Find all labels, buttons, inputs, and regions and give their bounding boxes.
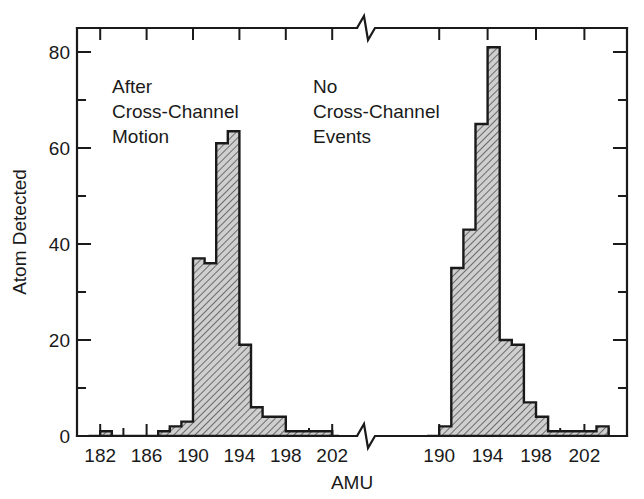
histogram-left-outline (89, 131, 344, 436)
x-axis-title: AMU (331, 472, 373, 493)
y-tick-label-0: 0 (59, 426, 70, 447)
histogram-right (427, 47, 608, 436)
y-tick-label-80: 80 (49, 42, 70, 63)
x-tick-label-left-190: 190 (177, 445, 209, 466)
y-tick-label-20: 20 (49, 330, 70, 351)
x-tick-label-left-198: 198 (270, 445, 302, 466)
annotation-right-line-2: Cross-Channel (313, 101, 440, 122)
annotation-left-line-2: Cross-Channel (112, 101, 239, 122)
x-tick-label-left-182: 182 (84, 445, 116, 466)
y-tick-label-40: 40 (49, 234, 70, 255)
annotation-right: No Cross-Channel Events (313, 76, 440, 147)
y-tick-labels: 0 20 40 60 80 (49, 42, 70, 447)
x-tick-label-left-186: 186 (131, 445, 163, 466)
x-tick-label-right-198: 198 (520, 445, 552, 466)
axis-break-top-icon (357, 16, 381, 40)
y-axis-title: Atom Detected (9, 169, 30, 295)
axis-break-bottom-icon (357, 424, 381, 448)
x-tick-label-right-202: 202 (569, 445, 601, 466)
annotation-left-line-1: After (112, 76, 153, 97)
annotation-right-line-3: Events (313, 126, 371, 147)
x-tick-label-right-190: 190 (423, 445, 455, 466)
x-tick-label-right-194: 194 (472, 445, 504, 466)
x-tick-label-left-202: 202 (316, 445, 348, 466)
plot-frame (77, 16, 627, 448)
chart-canvas: 0 20 40 60 80 Atom Detected (0, 0, 644, 499)
x-tick-label-left-194: 194 (224, 445, 256, 466)
histogram-figure: 0 20 40 60 80 Atom Detected (0, 0, 644, 499)
annotation-right-line-1: No (313, 76, 337, 97)
x-tick-labels-right: 190 194 198 202 (423, 445, 600, 466)
histogram-left (89, 131, 344, 436)
annotation-left-line-3: Motion (112, 126, 169, 147)
y-tick-label-60: 60 (49, 138, 70, 159)
annotation-left: After Cross-Channel Motion (112, 76, 239, 147)
x-tick-labels-left: 182 186 190 194 198 202 (84, 445, 348, 466)
histogram-right-outline (427, 47, 608, 436)
